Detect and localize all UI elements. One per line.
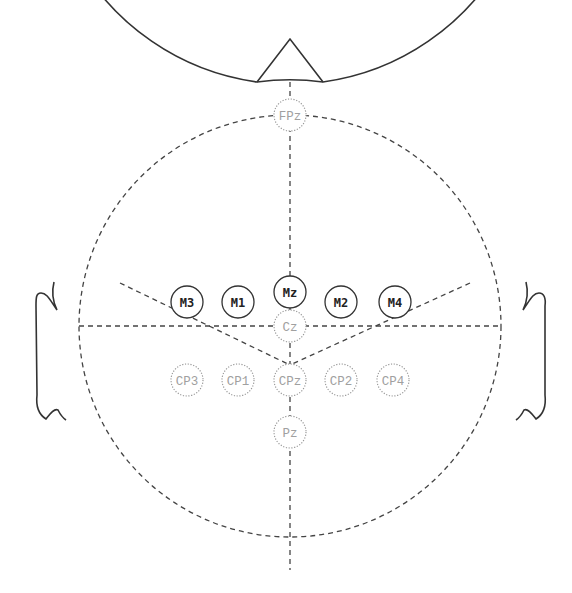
electrode-m1: M1: [222, 286, 254, 318]
nose-icon: [257, 39, 323, 82]
electrode-m2: M2: [325, 286, 357, 318]
electrode-cpz: CPz: [274, 364, 306, 396]
eeg-head-diagram: FPzCzCP3CP1CPzCP2CP4Pz M3M1MzM2M4: [0, 0, 572, 593]
electrode-label: CP2: [330, 375, 353, 389]
right-ear-icon: [516, 282, 545, 420]
diagonal-left: [120, 283, 290, 365]
electrode-cp2: CP2: [325, 364, 357, 396]
electrode-mz: Mz: [274, 276, 306, 308]
electrode-pz: Pz: [274, 416, 306, 448]
electrode-cz: Cz: [274, 310, 306, 342]
electrode-label: CPz: [279, 375, 302, 389]
electrode-cp3: CP3: [171, 364, 203, 396]
electrode-label: M4: [388, 296, 402, 310]
electrode-label: M1: [231, 296, 245, 310]
electrode-m3: M3: [171, 286, 203, 318]
left-ear-icon: [36, 282, 66, 420]
electrode-label: CP3: [176, 375, 199, 389]
electrode-label: Cz: [282, 321, 297, 335]
electrode-label: CP1: [227, 375, 250, 389]
electrode-label: Pz: [282, 427, 297, 441]
electrode-m4: M4: [379, 286, 411, 318]
electrode-label: M2: [334, 296, 348, 310]
electrode-label: FPz: [279, 110, 302, 124]
head-circle: [46, 0, 534, 82]
electrode-cp4: CP4: [377, 364, 409, 396]
electrode-label: M3: [180, 296, 194, 310]
electrode-label: Mz: [283, 286, 297, 300]
electrode-cp1: CP1: [222, 364, 254, 396]
electrode-label: CP4: [382, 375, 405, 389]
electrode-fpz: FPz: [274, 99, 306, 131]
